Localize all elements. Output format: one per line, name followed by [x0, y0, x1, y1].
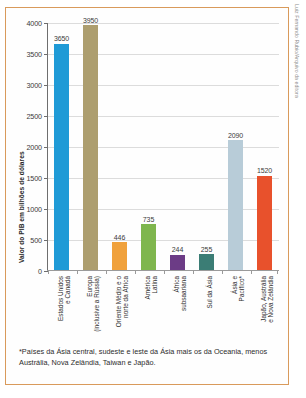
x-tick-mark	[251, 271, 252, 274]
gridline	[47, 116, 279, 117]
gridline	[47, 85, 279, 86]
x-category-label-text: Ásia e Pacífico*	[231, 276, 246, 301]
bar[interactable]: 2090	[228, 140, 243, 270]
gridline	[47, 23, 279, 24]
x-category-label-text: Sul da Ásia	[205, 276, 212, 309]
x-tick-mark	[106, 271, 107, 274]
gridline	[47, 178, 279, 179]
bar[interactable]: 1520	[257, 176, 272, 270]
gridline	[47, 147, 279, 148]
bar-value-label: 735	[143, 216, 154, 223]
y-tick-label: 1500	[26, 174, 42, 183]
x-category-label-text: África subsaariana	[173, 276, 188, 311]
chart-figure: Luiz Fernando Rubio/Arquivo da editora V…	[0, 0, 306, 398]
y-axis-title: Valor do PIB em bilhões de dólares	[7, 67, 19, 267]
y-tick-mark	[44, 116, 48, 117]
x-tick-mark	[222, 271, 223, 274]
bar[interactable]: 255	[199, 254, 214, 270]
y-tick-label: 500	[30, 236, 42, 245]
bar[interactable]: 446	[112, 242, 127, 270]
x-tick-mark	[135, 271, 136, 274]
bar-value-label: 244	[172, 246, 183, 253]
y-axis-title-text: Valor do PIB em bilhões de dólares	[18, 151, 25, 263]
y-tick-label: 2000	[26, 143, 42, 152]
x-tick-mark	[48, 271, 49, 274]
gridline	[47, 209, 279, 210]
y-tick-mark	[44, 209, 48, 210]
y-tick-label: 1000	[26, 205, 42, 214]
bar-value-label: 3650	[54, 35, 69, 42]
plot-area: 05001000150020002500300035004000 3650Est…	[47, 23, 279, 271]
y-tick-mark	[44, 23, 48, 24]
bar-value-label: 1520	[257, 167, 272, 174]
y-tick-mark	[44, 147, 48, 148]
image-credit: Luiz Fernando Rubio/Arquivo da editora	[291, 4, 305, 144]
x-tick-mark	[277, 271, 278, 274]
y-tick-label: 3500	[26, 50, 42, 59]
bar[interactable]: 244	[170, 255, 185, 270]
bar-value-label: 2090	[228, 132, 243, 139]
y-tick-mark	[44, 85, 48, 86]
y-tick-label: 3000	[26, 81, 42, 90]
x-category-label-text: Estados Unidos e Canadá	[57, 276, 72, 321]
chart-footnote: *Países da Ásia central, sudeste e leste…	[19, 347, 279, 368]
x-tick-mark	[77, 271, 78, 274]
y-tick-mark	[44, 54, 48, 55]
y-tick-mark	[44, 240, 48, 241]
bar-value-label: 3950	[83, 17, 98, 24]
bar-chart: Valor do PIB em bilhões de dólares 05001…	[5, 7, 289, 385]
y-tick-label: 4000	[26, 19, 42, 28]
x-category-label-text: Europa (inclusive a Rússia)	[86, 276, 101, 332]
gridline	[47, 240, 279, 241]
bar-value-label: 255	[201, 246, 212, 253]
y-tick-mark	[44, 178, 48, 179]
x-category-label-text: Japão, Austrália e Nova Zelândia	[260, 276, 275, 323]
image-credit-text: Luiz Fernando Rubio/Arquivo da editora	[294, 4, 300, 98]
bar-value-label: 446	[114, 234, 125, 241]
x-tick-mark	[193, 271, 194, 274]
x-category-label-text: América Latina	[144, 276, 159, 300]
y-tick-label: 0	[38, 267, 42, 276]
gridline	[47, 54, 279, 55]
x-axis-line	[47, 270, 279, 271]
bar[interactable]: 3650	[54, 44, 69, 270]
y-tick-label: 2500	[26, 112, 42, 121]
x-tick-mark	[164, 271, 165, 274]
x-category-label-text: Oriente Médio e o norte da África	[115, 276, 130, 327]
bar[interactable]: 3950	[83, 25, 98, 270]
bar[interactable]: 735	[141, 224, 156, 270]
